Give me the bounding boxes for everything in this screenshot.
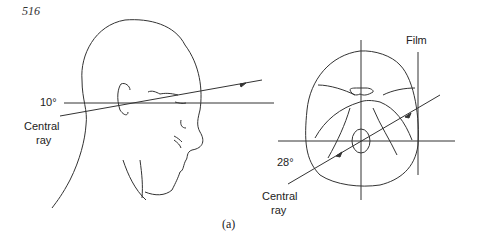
angle-label-left: 10°	[40, 96, 57, 109]
ray-arrow-icon	[336, 152, 342, 157]
central-ray-left	[60, 80, 262, 116]
angle-label-right: 28°	[277, 156, 294, 169]
central-ray-label-left-1: Central	[24, 120, 59, 133]
central-ray-label-right-2: ray	[271, 204, 286, 217]
film-label: Film	[406, 34, 427, 47]
figure-caption: (a)	[222, 217, 235, 232]
skull-base-drawing	[306, 51, 419, 186]
central-ray-label-right-1: Central	[262, 190, 297, 203]
ray-arrow-icon	[240, 83, 246, 87]
central-ray-right	[288, 95, 440, 184]
central-ray-label-left-2: ray	[36, 134, 51, 147]
figure-canvas: 516	[0, 0, 480, 236]
